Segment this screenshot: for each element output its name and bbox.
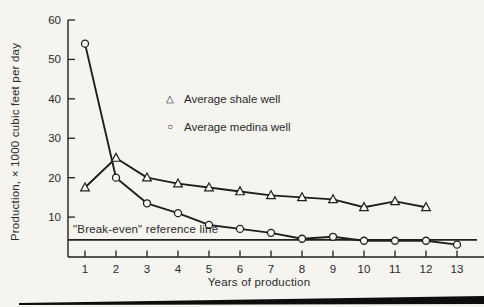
production-decline-figure: 10203040506012345678910111213 Production… bbox=[0, 0, 484, 307]
series-line-shale bbox=[85, 158, 426, 207]
y-axis-ticks: 102030405060 bbox=[48, 14, 75, 223]
svg-text:20: 20 bbox=[48, 172, 61, 184]
svg-text:9: 9 bbox=[330, 263, 336, 275]
svg-text:10: 10 bbox=[48, 211, 61, 223]
svg-text:12: 12 bbox=[420, 263, 433, 275]
svg-text:10: 10 bbox=[358, 263, 371, 275]
legend-label-medina: Average medina well bbox=[184, 121, 291, 133]
y-axis-title: Production, × 1000 cubic feet per day bbox=[9, 43, 21, 241]
svg-text:50: 50 bbox=[48, 53, 61, 65]
circle-icon: ○ bbox=[165, 122, 175, 132]
axes bbox=[68, 20, 484, 257]
svg-text:4: 4 bbox=[175, 263, 182, 275]
svg-text:7: 7 bbox=[268, 263, 274, 275]
svg-text:8: 8 bbox=[299, 263, 305, 275]
legend-item-medina: ○ Average medina well bbox=[165, 121, 291, 133]
x-axis-title: Years of production bbox=[208, 276, 310, 288]
svg-text:2: 2 bbox=[113, 263, 119, 275]
series-markers-shale bbox=[81, 153, 431, 210]
breakeven-label: "Break-even" reference line bbox=[73, 223, 218, 235]
svg-text:6: 6 bbox=[237, 263, 243, 275]
triangle-icon: △ bbox=[165, 94, 175, 104]
svg-text:5: 5 bbox=[206, 263, 212, 275]
svg-text:40: 40 bbox=[48, 93, 61, 105]
svg-text:30: 30 bbox=[48, 132, 61, 144]
svg-text:3: 3 bbox=[144, 263, 150, 275]
legend-item-shale: △ Average shale well bbox=[165, 93, 280, 105]
bottom-scan-bar bbox=[19, 296, 484, 305]
svg-text:11: 11 bbox=[389, 263, 401, 275]
svg-text:1: 1 bbox=[82, 263, 88, 275]
legend-label-shale: Average shale well bbox=[184, 93, 280, 105]
decline-curve-chart: 10203040506012345678910111213 bbox=[0, 0, 484, 307]
series-line-medina bbox=[85, 44, 457, 245]
series-markers-medina bbox=[82, 40, 461, 248]
svg-text:60: 60 bbox=[48, 14, 61, 26]
x-axis-ticks: 12345678910111213 bbox=[82, 251, 464, 276]
svg-text:13: 13 bbox=[451, 263, 464, 275]
